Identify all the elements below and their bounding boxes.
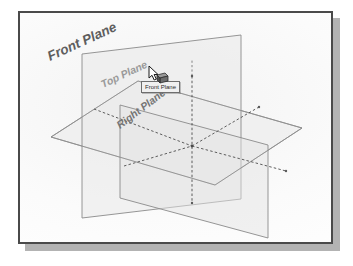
screenshot-root: Front Plane Top Plane Right Plane Front …: [0, 0, 353, 266]
node-upper: [191, 75, 193, 77]
viewport-window: Front Plane Top Plane Right Plane Front …: [18, 11, 333, 244]
node-far-right: [285, 170, 287, 172]
origin-node: [191, 145, 194, 148]
node-right: [258, 106, 260, 108]
reference-planes-svg[interactable]: Front Plane Top Plane Right Plane: [20, 13, 331, 242]
node-lower: [191, 202, 193, 204]
cad-scene[interactable]: Front Plane Top Plane Right Plane: [20, 13, 331, 242]
front-plane-tooltip: Front Plane: [141, 81, 180, 93]
